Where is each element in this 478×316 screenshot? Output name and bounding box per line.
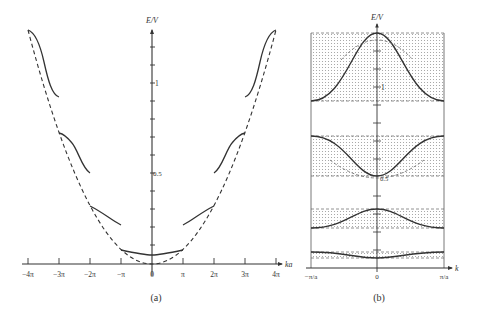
x-tick-label: 0 — [150, 270, 154, 279]
allowed-band-regions — [311, 33, 444, 258]
x-tick-label: −3π — [53, 270, 65, 279]
x-tick-label: 4π — [272, 270, 280, 279]
panel-a: E/V ka 1 0.5 −4π −3π −2π −π 0 π 2π 3π 4π… — [22, 16, 293, 304]
x-tick-label: π/a — [440, 273, 449, 281]
band-4-left — [28, 30, 59, 97]
band-2-left — [90, 206, 121, 225]
x-tick-label: −π/a — [305, 273, 318, 281]
panel-a-y-tick-0.5: 0.5 — [153, 170, 162, 178]
band-structure-figure: E/V ka 1 0.5 −4π −3π −2π −π 0 π 2π 3π 4π… — [0, 0, 478, 316]
panel-b-y-tick-0.5: 0.5 — [380, 175, 388, 182]
x-tick-label: −4π — [22, 270, 34, 279]
panel-a-y-axis-label: E/V — [145, 16, 159, 25]
panel-a-x-tick-labels: −4π −3π −2π −π 0 π 2π 3π 4π — [22, 270, 280, 279]
band-3-right — [214, 133, 245, 173]
x-tick-label: 3π — [241, 270, 249, 279]
x-tick-label: π — [181, 270, 185, 279]
x-tick-label: −π — [117, 270, 125, 279]
band-2-right — [183, 206, 214, 225]
panel-a-caption: (a) — [150, 292, 161, 304]
panel-a-x-axis-label: ka — [285, 260, 293, 269]
x-tick-label: 2π — [210, 270, 218, 279]
band-4-right — [245, 30, 276, 97]
panel-b-caption: (b) — [373, 292, 385, 304]
x-tick-label: 0 — [375, 273, 379, 281]
panel-a-y-tick-1: 1 — [155, 79, 159, 88]
panel-b-y-tick-1: 1 — [381, 83, 385, 92]
panel-b: E/V k 1 0.5 −π/a 0 π/a (b) — [305, 13, 459, 304]
band-3-left — [59, 133, 90, 173]
panel-b-y-axis-label: E/V — [370, 13, 384, 22]
panel-b-x-axis-label: k — [455, 264, 459, 273]
x-tick-label: −2π — [84, 270, 96, 279]
